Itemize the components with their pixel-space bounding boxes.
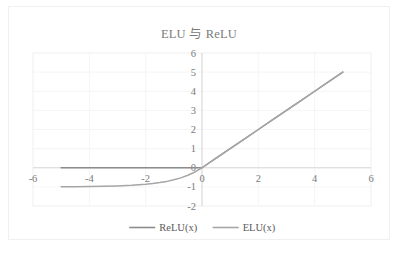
legend-label: ELU(x) [243, 222, 276, 234]
legend-label: ReLU(x) [159, 222, 197, 234]
svg-text:-2: -2 [141, 173, 150, 184]
svg-text:5: 5 [191, 67, 196, 78]
svg-text:2: 2 [191, 124, 196, 135]
chart-frame: ELU 与 ReLU -2-10123456 -6-4-20246 ReLU(x… [8, 6, 390, 240]
svg-text:-2: -2 [187, 201, 196, 212]
svg-text:6: 6 [191, 48, 196, 59]
svg-text:-6: -6 [29, 173, 38, 184]
svg-text:2: 2 [256, 173, 261, 184]
svg-text:4: 4 [312, 173, 318, 184]
svg-text:-4: -4 [85, 173, 94, 184]
chart-legend: ReLU(x)ELU(x) [129, 222, 276, 234]
svg-text:1: 1 [191, 143, 196, 154]
svg-text:3: 3 [191, 105, 196, 116]
x-axis-tick-labels: -6-4-20246 [29, 173, 374, 184]
svg-text:4: 4 [191, 86, 197, 97]
svg-text:0: 0 [199, 173, 204, 184]
svg-text:-1: -1 [187, 181, 196, 192]
line-chart-plot: -2-10123456 -6-4-20246 ReLU(x)ELU(x) [9, 7, 391, 241]
svg-text:6: 6 [368, 173, 373, 184]
